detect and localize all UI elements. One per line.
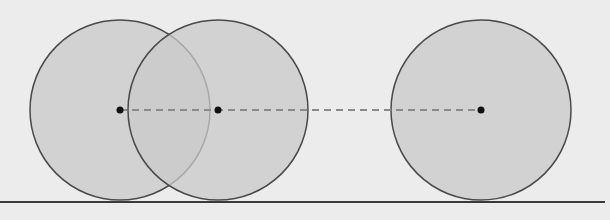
center-dot-1	[117, 107, 124, 114]
rolling-circles-diagram	[0, 0, 610, 220]
center-dot-3	[478, 107, 485, 114]
center-dot-2	[215, 107, 222, 114]
